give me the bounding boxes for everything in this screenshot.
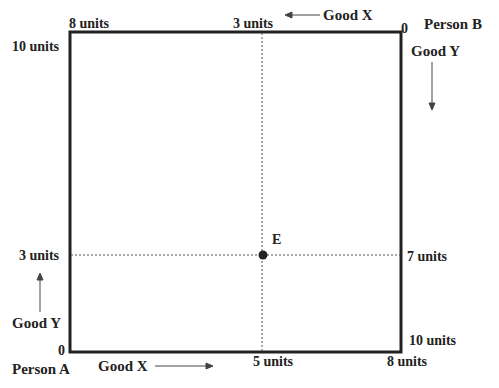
label-bottom-mid: 5 units <box>253 355 293 369</box>
label-left-mid: 3 units <box>19 249 59 263</box>
label-right-bottom: 10 units <box>409 334 456 348</box>
label-top-mid: 3 units <box>233 17 273 31</box>
label-good-y-b: Good Y <box>411 44 460 59</box>
label-good-y-a: Good Y <box>12 316 61 331</box>
point-e-dot <box>259 251 268 260</box>
label-person-b: Person B <box>424 17 482 32</box>
label-person-a: Person A <box>12 362 70 377</box>
label-top-left: 8 units <box>69 17 109 31</box>
box-outline <box>70 32 401 352</box>
label-point-e: E <box>272 233 281 247</box>
label-good-x-a: Good X <box>98 359 148 374</box>
label-origin-a: 0 <box>58 344 65 358</box>
label-left-top: 10 units <box>12 40 59 54</box>
label-good-x-b: Good X <box>323 8 373 23</box>
label-origin-b: 0 <box>401 22 408 36</box>
label-bottom-right: 8 units <box>387 355 427 369</box>
label-right-mid: 7 units <box>407 250 447 264</box>
